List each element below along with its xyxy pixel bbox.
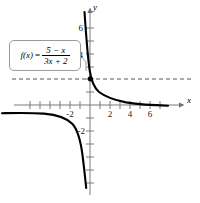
formula-numerator: 5 − x: [44, 45, 67, 55]
x-tick-label-2: 2: [108, 109, 113, 119]
formula-expression: f(x) = 5 − x 3x + 2: [20, 45, 69, 67]
curve-right-branch: [85, 12, 169, 106]
y-axis-label: y: [92, 2, 97, 12]
marked-point: [88, 76, 93, 81]
y-tick-label-6: 6: [79, 23, 84, 33]
rational-function-graph-figure: y x 6 4 -2 -2 2 4 6 f(x) = 5 − x 3x + 2: [0, 0, 200, 203]
y-tick-label-minus-2: -2: [78, 126, 86, 136]
formula-denominator: 3x + 2: [42, 56, 70, 66]
x-tick-label-6: 6: [148, 109, 153, 119]
curve-left-branch: [2, 113, 86, 188]
x-tick-label-minus-2: -2: [66, 109, 74, 119]
formula-fraction: 5 − x 3x + 2: [42, 45, 70, 67]
plot-area: y x 6 4 -2 -2 2 4 6: [0, 0, 200, 203]
x-axis-label: x: [186, 95, 191, 105]
x-tick-label-4: 4: [128, 109, 133, 119]
formula-function-name: f(x): [20, 51, 33, 60]
function-formula-callout: f(x) = 5 − x 3x + 2: [9, 40, 81, 71]
formula-equals-sign: =: [35, 51, 40, 60]
